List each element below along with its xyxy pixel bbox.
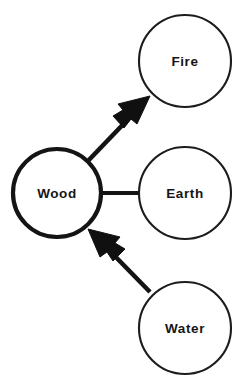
- elements-diagram: Fire Wood Earth Water: [0, 0, 237, 378]
- node-fire-label: Fire: [171, 54, 198, 69]
- arrowhead-icon-to-fire: [113, 96, 150, 128]
- node-wood[interactable]: Wood: [13, 149, 101, 237]
- node-wood-label: Wood: [37, 186, 77, 201]
- node-water-label: Water: [165, 321, 205, 336]
- node-earth-label: Earth: [166, 186, 204, 201]
- node-water[interactable]: Water: [139, 282, 231, 374]
- edge-water-to-wood: [88, 229, 150, 292]
- node-earth[interactable]: Earth: [139, 147, 231, 239]
- edge-wood-to-fire: [86, 96, 150, 163]
- node-fire[interactable]: Fire: [139, 15, 231, 107]
- arrowhead-icon-to-wood: [88, 229, 125, 261]
- diagram-canvas: Fire Wood Earth Water: [0, 0, 237, 378]
